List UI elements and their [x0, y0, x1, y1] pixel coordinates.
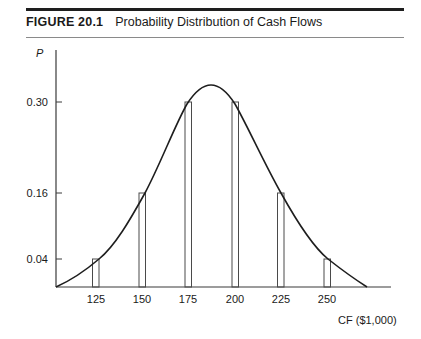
- density-curve: [56, 85, 367, 287]
- chart-plot: P 0.30 0.16 0.04 125 150 175 200 225 250…: [0, 0, 421, 339]
- x-tick-label: 150: [133, 293, 151, 305]
- x-ticks: 125 150 175 200 225 250: [87, 293, 336, 305]
- bar-175: [185, 102, 192, 287]
- x-tick-label: 175: [179, 293, 197, 305]
- y-tick-label: 0.04: [27, 253, 48, 265]
- x-axis-label: CF ($1,000): [338, 314, 397, 326]
- y-axis-label: P: [36, 47, 44, 59]
- x-tick-label: 125: [87, 293, 105, 305]
- bar-200: [232, 102, 239, 287]
- bar-250: [324, 259, 331, 287]
- y-tick-label: 0.30: [27, 96, 48, 108]
- bar-225: [278, 193, 285, 287]
- y-ticks: 0.30 0.16 0.04: [27, 96, 62, 265]
- x-tick-label: 200: [226, 293, 244, 305]
- x-tick-label: 225: [272, 293, 290, 305]
- probability-bars: [93, 102, 331, 287]
- y-tick-label: 0.16: [27, 187, 48, 199]
- x-tick-label: 250: [318, 293, 336, 305]
- bar-150: [139, 193, 146, 287]
